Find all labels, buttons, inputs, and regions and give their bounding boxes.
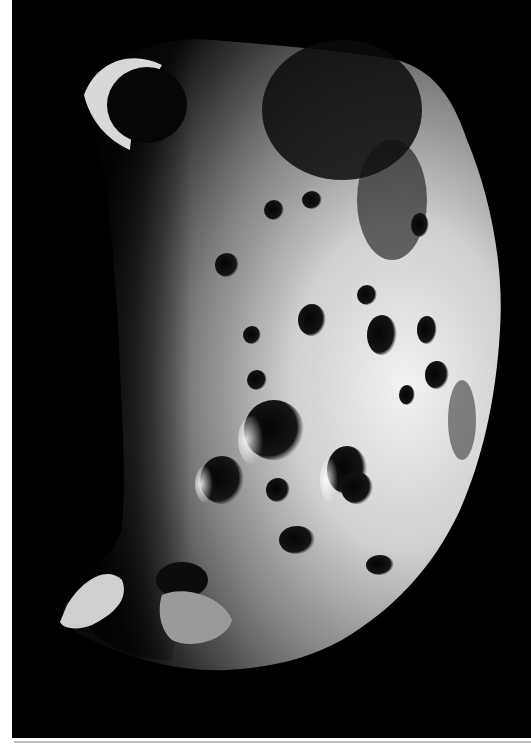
bottom-rule	[14, 741, 531, 743]
photo-frame	[12, 0, 531, 738]
moon-illustration	[12, 0, 531, 738]
